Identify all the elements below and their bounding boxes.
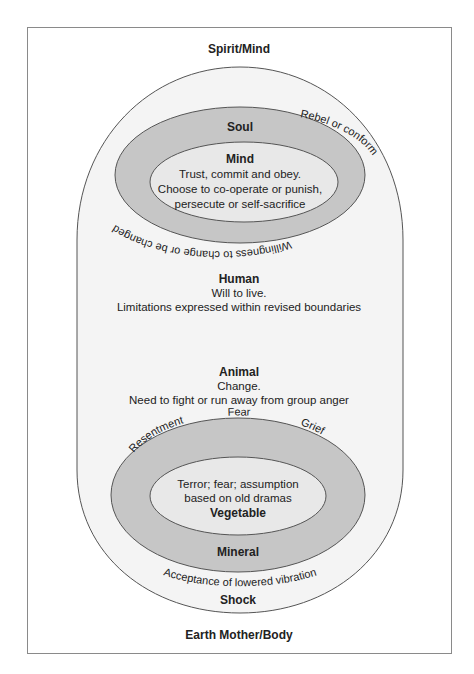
animal-line-2: Need to fight or run away from group ang… — [129, 394, 349, 406]
animal-line-1: Change. — [217, 380, 260, 392]
soul-title: Soul — [227, 120, 253, 134]
mineral-arc-fear: Fear — [227, 405, 251, 417]
human-line-1: Will to live. — [212, 287, 267, 299]
mind-line-1: Trust, commit and obey. — [179, 168, 301, 180]
diagram-canvas: Spirit/Mind Soul Willingness to change o… — [0, 0, 474, 674]
mind-line-3: persecute or self-sacrifice — [174, 198, 305, 210]
shock-title: Shock — [220, 593, 256, 607]
vegetable-line-1: Terror; fear; assumption — [177, 478, 298, 490]
vegetable-line-2: based on old dramas — [184, 492, 292, 504]
human-title: Human — [219, 272, 260, 286]
animal-title: Animal — [219, 365, 259, 379]
mind-line-2: Choose to co-operate or punish, — [158, 183, 322, 195]
mind-title: Mind — [226, 152, 254, 166]
spirit-mind-label: Spirit/Mind — [208, 42, 270, 56]
mineral-title: Mineral — [217, 545, 259, 559]
vegetable-title: Vegetable — [210, 506, 266, 520]
earth-mother-body-label: Earth Mother/Body — [185, 628, 293, 642]
human-line-2: Limitations expressed within revised bou… — [117, 301, 361, 313]
fear-text: Fear — [227, 405, 251, 417]
